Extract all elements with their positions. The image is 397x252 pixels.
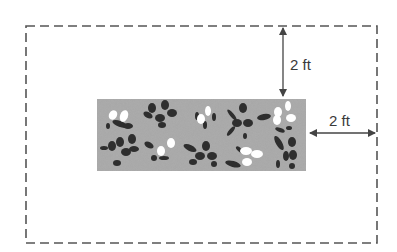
- garden-bed: [97, 99, 306, 171]
- garden-diagram: 2 ft 2 ft: [0, 0, 397, 252]
- dimension-right-label: 2 ft: [329, 112, 351, 129]
- dimension-top: 2 ft: [283, 28, 312, 96]
- dimension-right: 2 ft: [310, 112, 375, 133]
- dimension-top-label: 2 ft: [290, 56, 312, 73]
